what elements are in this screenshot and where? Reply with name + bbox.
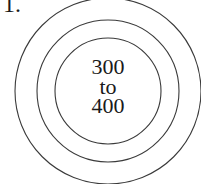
range-end: 400 (68, 96, 148, 116)
center-range-text: 300 to 400 (68, 57, 148, 116)
